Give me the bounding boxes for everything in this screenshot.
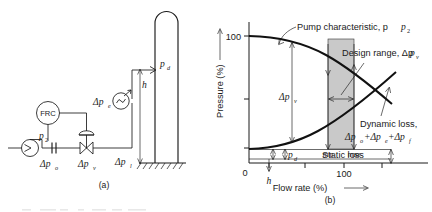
label-pump-characteristic: Pump characteristic, p <box>297 22 388 32</box>
ylabel-text: Pressure (%) <box>215 64 225 118</box>
frc-controller-circle: FRC <box>37 102 60 125</box>
label-delta-p-o-sub: o <box>55 164 58 171</box>
vertical-vessel-outline <box>155 12 178 164</box>
label-delta-p-e: Δp <box>92 96 104 107</box>
label-pd-sub: d <box>167 64 171 71</box>
ytick-100: 100 <box>226 32 241 42</box>
panel-a: FRC p d h Δp <box>8 12 186 191</box>
chart-y-axis-title: Pressure (%) <box>215 29 225 118</box>
delta-pv-dimension: Δp v <box>278 42 297 142</box>
label-h-chart: h <box>267 175 272 186</box>
label-delta-p-v-sub: v <box>93 164 96 171</box>
label-chart-delta-pv: Δp <box>278 91 290 102</box>
label-chart-delta-pv-sub: v <box>294 97 297 104</box>
label-design-range-sub: v <box>416 53 419 60</box>
xtick-0: 0 <box>242 168 247 178</box>
label-delta-p-v: Δp <box>77 158 89 169</box>
label-pd-chart: p <box>287 149 293 160</box>
centrifugal-pump-symbol <box>22 140 43 157</box>
label-pd-chart-sub: d <box>294 155 298 162</box>
ground-hatching <box>137 163 186 169</box>
label-delta-p-e-sub: e <box>108 102 111 109</box>
label-delta-p-l-sub: l <box>130 162 132 169</box>
label-design-range: Design range, Δp <box>342 48 413 58</box>
label-dynamic-loss-line1: Dynamic loss, <box>360 119 417 129</box>
label-delta-p-l: Δp <box>114 156 126 167</box>
label-static-loss: Static loss <box>322 150 364 160</box>
frc-controller-label: FRC <box>40 109 56 118</box>
label-pump-characteristic-p: p <box>400 21 406 32</box>
cut-off-caption-sliver <box>22 209 146 211</box>
pd-dimension: p d <box>271 149 298 162</box>
label-h: h <box>142 79 147 90</box>
panel-b: 100 Pressure (%) 0 100 Flow rate (%) <box>215 21 428 205</box>
dl-term-a-sub: o <box>360 137 363 144</box>
control-valve-symbol <box>79 131 94 154</box>
label-p2: p <box>38 130 44 141</box>
chart-y-axis: 100 <box>226 22 249 163</box>
label-p2-sub: 2 <box>45 136 48 143</box>
flow-element-circle <box>113 90 131 109</box>
label-delta-p-o: Δp <box>39 158 51 169</box>
label-pump-characteristic-sub: 2 <box>407 27 410 34</box>
dl-term-b: +Δp <box>364 131 381 142</box>
xlabel-text: Flow rate (%) <box>273 183 328 193</box>
label-design-range-p: p <box>409 47 415 58</box>
panel-b-caption: (b) <box>325 195 336 205</box>
dl-term-c: +Δp <box>388 131 405 142</box>
xtick-100: 100 <box>336 169 351 179</box>
label-pd: p <box>159 58 165 69</box>
figure-root: FRC p d h Δp <box>0 0 432 212</box>
process-piping <box>8 70 155 148</box>
dl-term-c-sub: f <box>409 137 412 144</box>
panel-a-caption: (a) <box>99 180 110 190</box>
figure-svg: FRC p d h Δp <box>0 0 432 212</box>
dl-term-a: Δp <box>344 131 356 142</box>
